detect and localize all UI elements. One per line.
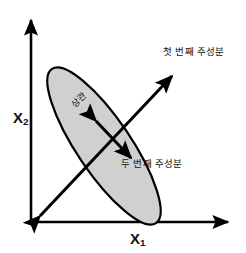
- y-axis-label-base: X: [13, 109, 23, 126]
- second-principal-component-label: 두 번째 주성분: [121, 159, 183, 169]
- x-axis-label-subscript: 1: [140, 237, 146, 248]
- y-axis-label: X2: [13, 110, 29, 127]
- diagram-canvas: [0, 0, 246, 253]
- pca-ellipse-diagram: 첫 번째 주성분 두 번째 주성분 상관 X1 X2: [0, 0, 246, 253]
- first-principal-component-label: 첫 번째 주성분: [163, 47, 225, 57]
- x-axis-label-base: X: [130, 230, 140, 247]
- y-axis-label-subscript: 2: [23, 116, 29, 127]
- x-axis-label: X1: [130, 231, 146, 248]
